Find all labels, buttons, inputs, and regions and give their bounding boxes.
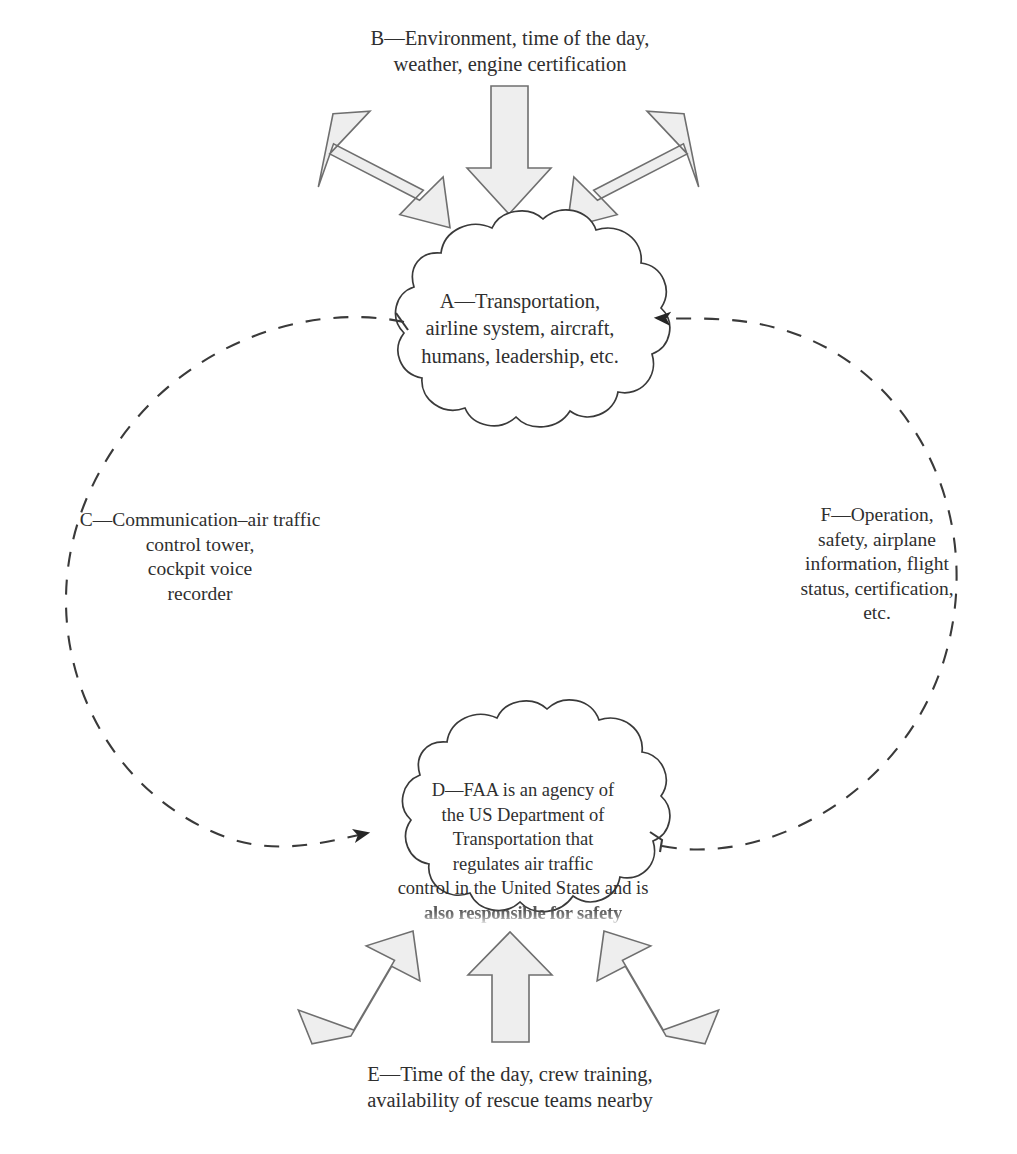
- label-b-environment: B—Environment, time of the day, weather,…: [330, 26, 690, 78]
- cloud-d-clipped-line: also responsible for safety: [368, 901, 678, 926]
- bottom-right-block-arrow: [596, 931, 720, 1044]
- top-left-block-arrow: [317, 110, 450, 230]
- label-c-communication: C—Communication–air traffic control towe…: [50, 508, 350, 606]
- top-center-block-arrow: [467, 86, 551, 214]
- label-e-time-of-day: E—Time of the day, crew training, availa…: [320, 1062, 700, 1114]
- diagram-canvas: B—Environment, time of the day, weather,…: [0, 0, 1017, 1154]
- cloud-a-label: A—Transportation, airline system, aircra…: [380, 288, 660, 370]
- bottom-left-block-arrow: [297, 931, 421, 1044]
- cloud-d-main-lines: D—FAA is an agency of the US Department …: [398, 780, 649, 898]
- bottom-center-block-arrow: [468, 932, 552, 1042]
- label-f-operation: F—Operation, safety, airplane informatio…: [782, 503, 972, 626]
- top-right-block-arrow: [567, 110, 700, 230]
- cloud-d-label: D—FAA is an agency of the US Department …: [368, 778, 678, 926]
